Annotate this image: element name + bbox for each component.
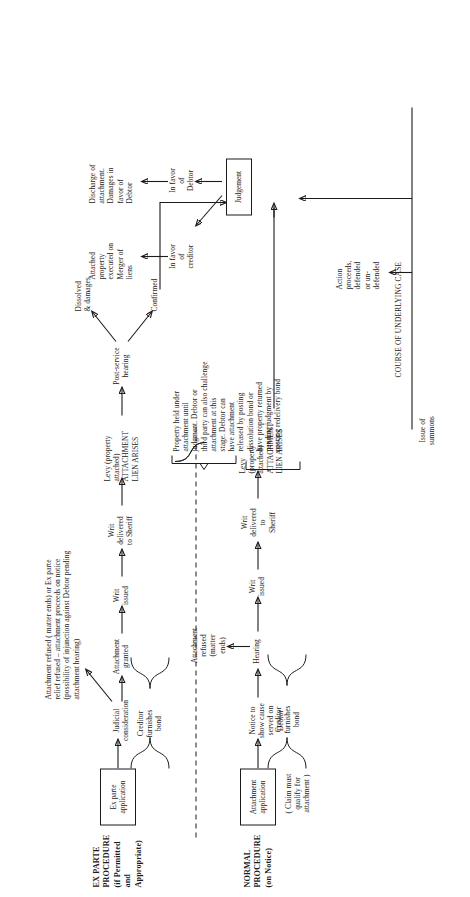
label-issue-of-summons: Issue of summons (418, 403, 436, 457)
label-levy-attachment-lien-exparte: Levy (property attached) ATTACHMENT LIEN… (103, 409, 140, 481)
label-levy-attachment-lien-normal: Levy (property attached) ATTACHMENT LIEN… (238, 403, 284, 473)
diagram-canvas: Ex parte application Attachment applicat… (0, 0, 470, 897)
label-writ-delivered-sheriff-normal: Writ delivered to Sheriff (240, 497, 277, 547)
label-post-service-hearing: Post-service hearing (112, 338, 130, 393)
label-action-proceeds: Action proceeds, defended or un- defende… (335, 229, 381, 289)
label-attachment-refused-note: Attachment refused ( matter ends) or Ex … (44, 467, 81, 699)
label-creditor-furnishes-bond-normal: Creditor furnishes bond (274, 691, 302, 747)
label-discharge-of-attachment: Discharge of attachment. Damages in favo… (88, 131, 134, 203)
label-judicial-consideration: Judicial consideration (112, 696, 130, 744)
label-writ-issued-normal: Writ issued (248, 565, 266, 607)
label-confirmed: Confirmed (150, 259, 159, 311)
box-judgement[interactable]: Judgement (226, 158, 252, 215)
label-course-of-underlying-case: COURSE OF UNDERLYING CASE (394, 177, 403, 377)
label-creditor-furnishes-bond-exparte: Creditor furnishes bond (136, 695, 164, 751)
label-attachment-granted: Attachment granted (112, 631, 130, 681)
label-in-favor-of-debtor: In favor of Debtor (168, 155, 196, 205)
label-claim-must-qualify-note: ( Claim must qualify for attachment ) (284, 764, 312, 822)
lane-title-normal: NORMAL PROCEDURE (on Notice) (243, 825, 274, 887)
lane-title-ex-parte: EX PARTE PROCEDURE (if Permitted and App… (92, 825, 144, 887)
label-writ-issued-exparte: Writ issued (112, 574, 130, 616)
label-attachment-refused-matter-ends: Attachment refused (matter ends) (190, 619, 227, 671)
box-attachment-application[interactable]: Attachment application (240, 768, 276, 825)
label-attached-property-executed: Attached property executed on Merger of … (88, 209, 134, 279)
rotated-diagram-content: Ex parte application Attachment applicat… (0, 0, 470, 897)
box-ex-parte-application[interactable]: Ex parte application (100, 768, 136, 825)
label-writ-delivered-sheriff-exparte: Writ delivered to Sheriff (107, 504, 135, 556)
label-in-favor-of-creditor: In favor of creditor (168, 231, 196, 281)
label-hearing: Hearing (252, 630, 261, 672)
